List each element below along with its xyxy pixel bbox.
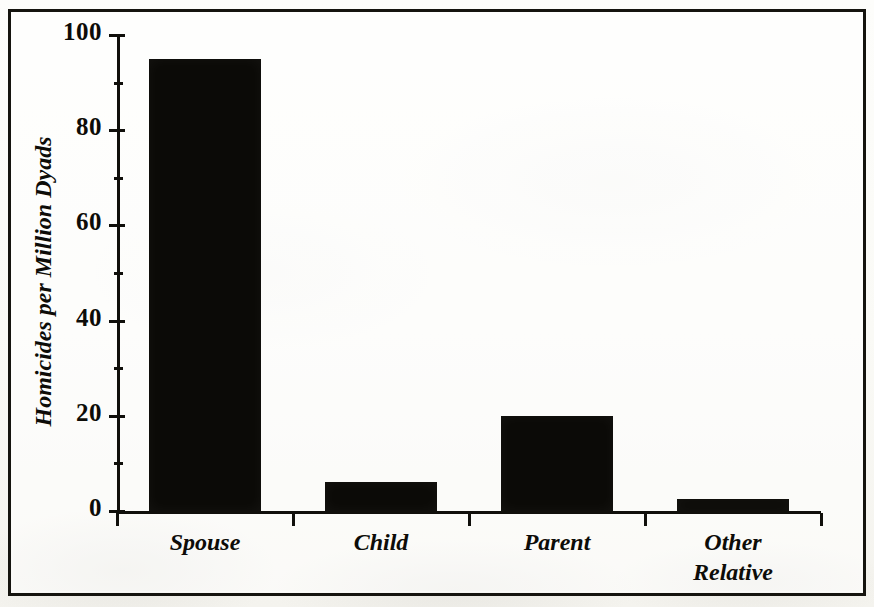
chart-frame-border: [8, 9, 866, 596]
figure-page: 020406080100 SpouseChildParentOtherRelat…: [0, 0, 874, 607]
